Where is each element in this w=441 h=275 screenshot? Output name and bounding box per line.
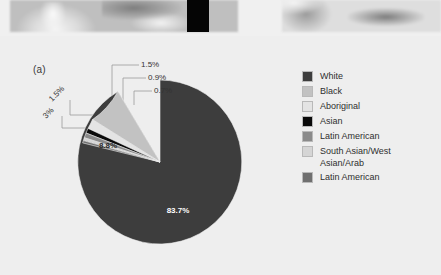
pie-callout-label-1-5-upper: 1.5% bbox=[141, 60, 159, 69]
black-rectangle-block bbox=[187, 0, 209, 32]
legend-item-latin-american-1[interactable]: Latin American bbox=[302, 130, 434, 143]
legend: White Black Aboriginal Asian Latin Ameri… bbox=[302, 70, 434, 186]
legend-swatch-latin-american-2 bbox=[302, 172, 313, 183]
legend-label-aboriginal: Aboriginal bbox=[320, 100, 360, 112]
pie-callout-label-0-9: 0.9% bbox=[148, 73, 166, 82]
legend-swatch-asian bbox=[302, 116, 313, 127]
figure-page: (a) bbox=[0, 0, 441, 275]
legend-label-latin-american-1: Latin American bbox=[320, 130, 380, 142]
pie-chart-svg: 83.7% 8.8% 0.7% 0.9% 1.5% 1.5% 3% bbox=[0, 36, 290, 275]
legend-item-south-asian[interactable]: South Asian/WestAsian/Arab bbox=[302, 145, 434, 169]
legend-label-asian: Asian bbox=[320, 115, 343, 127]
photo-highlight bbox=[282, 0, 322, 14]
pie-callout-label-0-7: 0.7% bbox=[154, 86, 172, 95]
legend-label-south-asian: South Asian/WestAsian/Arab bbox=[320, 145, 391, 169]
photo-shadow bbox=[348, 8, 424, 26]
legend-swatch-aboriginal bbox=[302, 101, 313, 112]
photo-strip bbox=[0, 0, 441, 36]
legend-item-asian[interactable]: Asian bbox=[302, 115, 434, 128]
legend-label-latin-american-2: Latin American bbox=[320, 171, 380, 183]
pie-callout-label-1-5-lower: 1.5% bbox=[47, 84, 66, 103]
legend-label-black: Black bbox=[320, 85, 342, 97]
leader-line-0-7 bbox=[134, 91, 152, 105]
pie-value-label-white: 83.7% bbox=[167, 206, 190, 215]
legend-swatch-latin-american-1 bbox=[302, 131, 313, 142]
legend-label-white: White bbox=[320, 70, 343, 82]
photo-shadow bbox=[102, 0, 182, 20]
photo-highlight bbox=[40, 2, 66, 32]
legend-swatch-white bbox=[302, 71, 313, 82]
pie-value-label-black: 8.8% bbox=[99, 141, 117, 150]
legend-item-aboriginal[interactable]: Aboriginal bbox=[302, 100, 434, 113]
leader-line-1-5-lower bbox=[70, 100, 96, 115]
pie-chart: 83.7% 8.8% 0.7% 0.9% 1.5% 1.5% 3% bbox=[0, 36, 290, 275]
pie-callout-label-3: 3% bbox=[41, 106, 56, 121]
legend-item-latin-american-2[interactable]: Latin American bbox=[302, 171, 434, 184]
legend-swatch-south-asian bbox=[302, 146, 313, 157]
legend-item-white[interactable]: White bbox=[302, 70, 434, 83]
legend-item-black[interactable]: Black bbox=[302, 85, 434, 98]
legend-swatch-black bbox=[302, 86, 313, 97]
blurred-grayscale-photo-right bbox=[282, 0, 441, 32]
